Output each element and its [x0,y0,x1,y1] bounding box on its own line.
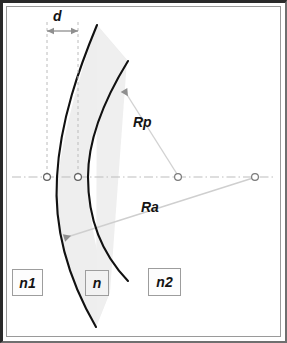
marker-anterior-vertex [44,174,51,181]
refractive-index-box-n: n [85,270,109,296]
marker-anterior-center [252,174,259,181]
radius-anterior-label: Ra [141,199,159,215]
lens-diagram: d Rp Ra n1 n n2 [0,0,287,343]
thickness-label: d [53,8,62,24]
marker-posterior-center [175,174,182,181]
thickness-dimension-arrow [47,28,78,34]
refractive-index-box-n2: n2 [148,268,181,296]
refractive-index-box-n1: n1 [12,269,43,296]
marker-posterior-vertex [75,174,82,181]
radius-leader-rp [124,90,177,174]
radius-posterior-label: Rp [133,114,152,130]
diagram-canvas [0,0,287,343]
